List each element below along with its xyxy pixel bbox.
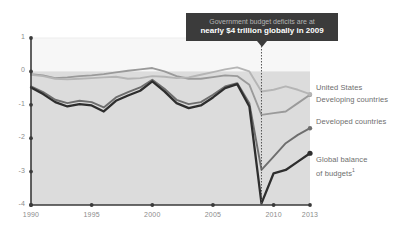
x-tick-2000: 2000 bbox=[132, 211, 172, 218]
series-endpoint-3 bbox=[307, 151, 312, 156]
y-tick--1: -1 bbox=[0, 100, 25, 107]
callout-arrow-icon bbox=[257, 41, 267, 47]
callout-line-1: Government budget deficits are at bbox=[192, 17, 332, 26]
legend-footnote-marker: 1 bbox=[352, 167, 355, 173]
x-tick-1995: 1995 bbox=[72, 211, 112, 218]
legend-label-0: United States bbox=[316, 83, 362, 92]
legend-label-1: Developing countries bbox=[316, 95, 388, 104]
legend-label-3: Global balance bbox=[316, 155, 367, 164]
series-endpoint-1 bbox=[308, 92, 312, 96]
legend-label-2: Developed countries bbox=[316, 117, 386, 126]
legend-item-1: Developing countries bbox=[316, 95, 388, 105]
x-tick-2010: 2010 bbox=[254, 211, 294, 218]
legend-item-0: United States bbox=[316, 83, 362, 93]
x-tick-2005: 2005 bbox=[193, 211, 233, 218]
legend-label-3-line2: of budgets bbox=[316, 169, 352, 178]
y-tick-1: 1 bbox=[0, 33, 25, 40]
y-tick-0: 0 bbox=[0, 66, 25, 73]
budget-deficit-chart: 10-1-2-3-4 199019952000200520102013 Gove… bbox=[0, 0, 399, 241]
series-endpoint-2 bbox=[308, 126, 312, 130]
callout-annotation: Government budget deficits are at nearly… bbox=[186, 13, 338, 41]
x-tick-2013: 2013 bbox=[290, 211, 330, 218]
y-tick--3: -3 bbox=[0, 167, 25, 174]
callout-line-2: nearly $4 trillion globally in 2009 bbox=[192, 26, 332, 36]
legend-item-3: Global balanceof budgets1 bbox=[316, 155, 367, 179]
y-tick--4: -4 bbox=[0, 200, 25, 207]
x-tick-1990: 1990 bbox=[11, 211, 51, 218]
legend-item-2: Developed countries bbox=[316, 117, 386, 127]
y-tick--2: -2 bbox=[0, 133, 25, 140]
